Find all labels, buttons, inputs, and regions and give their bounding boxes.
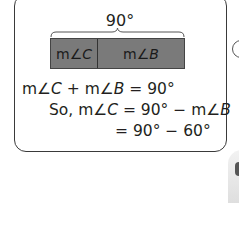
equation-line-3: = 90° − 60°: [115, 122, 211, 140]
bar-segment-angle-c: m∠C: [51, 39, 98, 68]
bar-model: m∠C m∠B: [50, 38, 185, 69]
equation-line-2: So, m∠C = 90° − m∠B: [49, 101, 231, 119]
circle-marker-icon: [232, 40, 239, 58]
brace-icon: [50, 28, 185, 38]
equation-line-1: m∠C + m∠B = 90°: [22, 80, 175, 98]
illustration-fragment: [228, 150, 239, 203]
illustration-detail: [235, 162, 239, 176]
bar-segment-angle-b: m∠B: [98, 39, 184, 68]
